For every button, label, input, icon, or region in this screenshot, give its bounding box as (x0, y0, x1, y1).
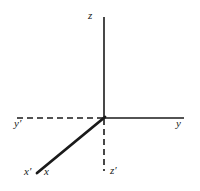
z-prime-axis-label: z′ (110, 165, 117, 176)
z-axis-label: z (88, 10, 92, 21)
x-axis-label: x (44, 166, 49, 177)
coordinate-axes-figure: z y y′ x′ x z′ (0, 0, 200, 191)
y-prime-axis-label: y′ (14, 118, 21, 129)
x-prime-axis-label: x′ (24, 166, 31, 177)
axes-drawing (0, 0, 200, 191)
y-axis-label: y (176, 118, 181, 129)
